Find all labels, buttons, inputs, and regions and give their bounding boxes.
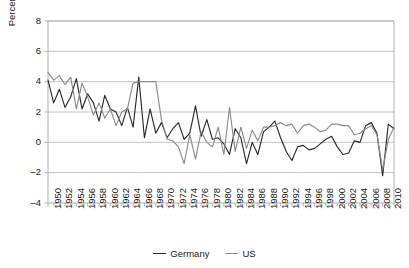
- x-tick-label: 1998: [324, 188, 335, 209]
- legend-line-swatch: [225, 253, 238, 254]
- x-tick-label: 2000: [336, 188, 347, 209]
- x-tick-label: 1976: [199, 188, 210, 209]
- x-tick-label: 1978: [211, 188, 222, 209]
- x-tick-label: 1968: [154, 188, 165, 209]
- x-tick-label: 1996: [313, 188, 324, 209]
- chart-plot-area: [0, 0, 409, 268]
- x-tick-label: 2006: [370, 188, 381, 209]
- x-tick-label: 2004: [358, 188, 369, 209]
- y-tick-label: 8: [19, 15, 41, 26]
- x-tick-label: 1988: [268, 188, 279, 209]
- x-tick-label: 1952: [63, 188, 74, 209]
- series-line-germany: [48, 77, 394, 176]
- x-tick-label: 1960: [109, 188, 120, 209]
- legend-label: US: [242, 248, 255, 259]
- x-tick-label: 1962: [120, 188, 131, 209]
- x-tick-label: 1982: [234, 188, 245, 209]
- x-tick-label: 1974: [188, 188, 199, 209]
- y-tick-label: –2: [19, 166, 41, 177]
- legend-item-germany: Germany: [153, 248, 209, 259]
- x-tick-label: 1956: [86, 188, 97, 209]
- x-tick-label: 1964: [131, 188, 142, 209]
- x-tick-label: 1994: [302, 188, 313, 209]
- x-tick-label: 1954: [75, 188, 86, 209]
- series-paths-group: [48, 73, 394, 176]
- x-tick-label: 1984: [245, 188, 256, 209]
- x-tick-label: 2008: [381, 188, 392, 209]
- x-tick-label: 1970: [165, 188, 176, 209]
- legend-label: Germany: [170, 248, 209, 259]
- x-tick-label: 2010: [392, 188, 403, 209]
- y-tick-label: 6: [19, 45, 41, 56]
- legend-line-swatch: [153, 253, 166, 254]
- x-tick-label: 1972: [177, 188, 188, 209]
- x-tick-label: 1986: [256, 188, 267, 209]
- x-tick-label: 1980: [222, 188, 233, 209]
- chart-legend: GermanyUS: [0, 243, 409, 263]
- y-tick-label: 2: [19, 106, 41, 117]
- x-tick-label: 1950: [52, 188, 63, 209]
- x-tick-label: 1966: [143, 188, 154, 209]
- chart-container: Percentage –4–202468 1950195219541956195…: [0, 0, 409, 268]
- x-tick-label: 1990: [279, 188, 290, 209]
- x-tick-label: 1992: [290, 188, 301, 209]
- y-tick-label: 0: [19, 136, 41, 147]
- y-axis-ticks-group: [45, 21, 49, 203]
- x-tick-label: 1958: [97, 188, 108, 209]
- x-tick-label: 2002: [347, 188, 358, 209]
- y-tick-label: 4: [19, 75, 41, 86]
- legend-item-us: US: [225, 248, 255, 259]
- y-tick-label: –4: [19, 197, 41, 208]
- gridlines-group: [48, 21, 394, 173]
- series-line-us: [48, 73, 394, 170]
